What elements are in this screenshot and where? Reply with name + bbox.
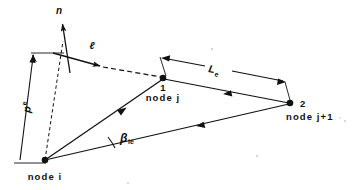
label-node-j: node j	[146, 92, 181, 103]
figure-canvas: p e n ℓ L e	[0, 0, 361, 190]
label-Le-sub: e	[214, 70, 219, 78]
label-beta-ie: β ie	[119, 131, 134, 145]
edge-i-to-j-arrow	[117, 108, 127, 116]
edge-j-to-j1	[164, 79, 289, 103]
label-l: ℓ	[89, 40, 95, 51]
label-beta-sub: ie	[128, 138, 134, 145]
construction-line-normal	[45, 41, 63, 160]
label-pe: p e	[19, 101, 33, 114]
node-j-dot[interactable]	[160, 75, 167, 82]
label-local-node-2: 2	[300, 98, 305, 109]
edge-i-to-j1	[45, 104, 289, 160]
label-n: n	[56, 5, 62, 16]
node-j1-dot[interactable]	[287, 100, 294, 107]
label-node-i: node i	[28, 171, 63, 182]
label-node-j1: node j+1	[286, 111, 334, 122]
label-Le: L e	[207, 62, 220, 78]
angle-arc-beta-ie	[108, 137, 115, 148]
tangent-dashed-extension	[103, 67, 161, 77]
label-pe-sub: e	[20, 101, 27, 106]
node-i-dot[interactable]	[42, 157, 49, 164]
diagram-svg: p e n ℓ L e	[0, 0, 361, 190]
label-beta: β	[119, 131, 128, 145]
vector-n	[63, 24, 71, 73]
